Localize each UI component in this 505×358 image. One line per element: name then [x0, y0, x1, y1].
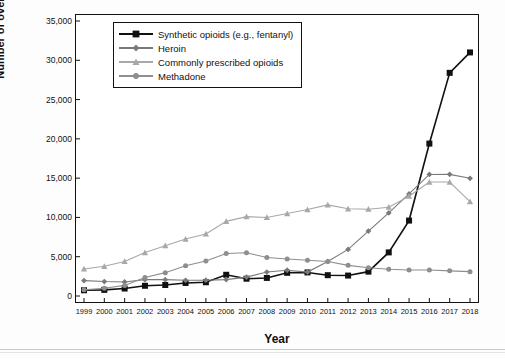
- data-point: [132, 58, 139, 65]
- data-point: [142, 275, 147, 280]
- data-point: [345, 273, 351, 279]
- data-point: [163, 270, 168, 275]
- data-point: [142, 283, 148, 289]
- legend-item: Commonly prescribed opioids: [119, 55, 293, 69]
- y-axis-tick-labels: 05,00010,00015,00020,00025,00030,00035,0…: [24, 14, 72, 303]
- y-tick-label: 20,000: [30, 134, 72, 144]
- x-tick-label: 2002: [137, 307, 154, 316]
- data-point: [325, 272, 331, 278]
- x-tick-label: 2003: [157, 307, 174, 316]
- x-tick-label: 2001: [116, 307, 133, 316]
- legend-item-label: Synthetic opioids (e.g., fentanyl): [158, 29, 293, 40]
- data-point: [447, 171, 453, 177]
- legend-marker-circle-icon: [119, 70, 153, 82]
- x-tick-label: 2012: [340, 307, 357, 316]
- data-point: [406, 218, 412, 224]
- data-point: [346, 263, 351, 268]
- x-tick-label: 2014: [380, 307, 397, 316]
- series-line: [84, 174, 470, 282]
- x-tick-label: 2007: [238, 307, 255, 316]
- data-point: [467, 175, 473, 181]
- chart-legend: Synthetic opioids (e.g., fentanyl)Heroin…: [113, 22, 302, 88]
- y-tick-label: 0: [30, 291, 72, 301]
- data-point: [264, 255, 269, 260]
- y-axis-title: Number of overdose deaths: [0, 0, 6, 96]
- data-point: [426, 141, 432, 147]
- legend-marker-square-icon: [119, 28, 153, 40]
- data-point: [468, 269, 473, 274]
- data-point: [467, 49, 473, 55]
- legend-item-label: Heroin: [158, 43, 186, 54]
- y-tick-label: 35,000: [30, 16, 72, 26]
- data-point: [325, 202, 331, 208]
- y-tick-label: 15,000: [30, 173, 72, 183]
- x-tick-label: 2011: [320, 307, 336, 316]
- data-point: [285, 257, 290, 262]
- footer-rule: [0, 349, 505, 350]
- data-point: [305, 258, 310, 263]
- x-tick-label: 2015: [401, 307, 418, 316]
- x-tick-label: 2010: [299, 307, 316, 316]
- x-tick-label: 2004: [177, 307, 194, 316]
- x-tick-label: 2016: [421, 307, 438, 316]
- data-point: [133, 73, 139, 79]
- data-point: [427, 268, 432, 273]
- data-point: [81, 278, 87, 284]
- x-tick-label: 1999: [76, 307, 93, 316]
- data-point: [82, 287, 87, 292]
- data-point: [244, 250, 249, 255]
- data-point: [162, 282, 168, 288]
- legend-item: Methadone: [119, 69, 293, 83]
- x-tick-label: 2018: [462, 307, 479, 316]
- overdose-deaths-line-chart: 05,00010,00015,00020,00025,00030,00035,0…: [0, 0, 505, 358]
- series-line: [84, 182, 470, 269]
- data-point: [101, 279, 107, 285]
- y-tick-label: 10,000: [30, 212, 72, 222]
- legend-marker-diamond-icon: [119, 42, 153, 54]
- x-axis-tick-labels: 1999200020012002200320042005200620072008…: [75, 305, 479, 327]
- data-point: [264, 269, 270, 275]
- x-tick-label: 2009: [279, 307, 296, 316]
- data-point: [102, 286, 107, 291]
- series-3: [81, 179, 473, 272]
- data-point: [386, 249, 392, 255]
- legend-item-label: Commonly prescribed opioids: [158, 57, 283, 68]
- data-point: [122, 258, 128, 264]
- y-tick-label: 25,000: [30, 95, 72, 105]
- y-axis-title-text: Number of overdose deaths: [0, 0, 6, 96]
- data-point: [133, 31, 140, 38]
- legend-item-label: Methadone: [158, 71, 206, 82]
- data-point: [407, 268, 412, 273]
- x-tick-label: 2008: [258, 307, 275, 316]
- y-tick-label: 30,000: [30, 55, 72, 65]
- data-point: [162, 277, 168, 283]
- footer-rule-secondary: [0, 352, 505, 353]
- legend-item: Synthetic opioids (e.g., fentanyl): [119, 27, 293, 41]
- data-point: [203, 231, 209, 237]
- data-point: [366, 265, 371, 270]
- x-tick-label: 2017: [441, 307, 458, 316]
- data-point: [264, 275, 270, 281]
- x-axis-title: Year: [75, 332, 479, 346]
- y-tick-label: 5,000: [30, 252, 72, 262]
- data-point: [183, 263, 188, 268]
- data-point: [325, 259, 330, 264]
- x-tick-label: 2013: [360, 307, 377, 316]
- data-point: [447, 70, 453, 76]
- data-point: [133, 45, 140, 52]
- data-point: [122, 283, 127, 288]
- data-point: [386, 267, 391, 272]
- data-point: [447, 268, 452, 273]
- series-2: [81, 171, 473, 284]
- legend-marker-triangle-icon: [119, 56, 153, 68]
- x-tick-label: 2006: [218, 307, 235, 316]
- legend-item: Heroin: [119, 41, 293, 55]
- x-tick-label: 2005: [198, 307, 215, 316]
- x-tick-label: 2000: [96, 307, 113, 316]
- series-line: [84, 52, 470, 290]
- data-point: [203, 258, 208, 263]
- data-point: [224, 251, 229, 256]
